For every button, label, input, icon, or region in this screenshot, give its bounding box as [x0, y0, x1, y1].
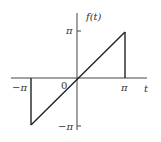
x-tick-label-pi: π — [120, 82, 128, 93]
y-tick-label-neg-pi: −π — [58, 121, 73, 132]
x-axis-label: t — [144, 83, 149, 94]
y-tick-label-pi: π — [65, 25, 73, 36]
origin-label: 0 — [61, 80, 67, 91]
x-tick-label-neg-pi: −π — [12, 82, 27, 93]
y-axis-label: f(t) — [85, 11, 102, 22]
plot: f(t) t −π π π −π 0 — [0, 0, 161, 142]
